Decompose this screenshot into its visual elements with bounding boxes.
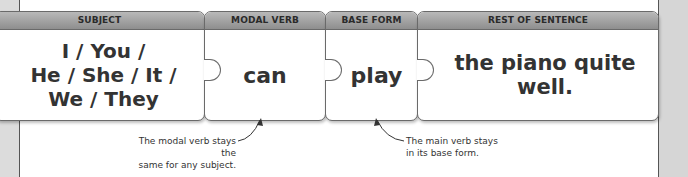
rest-of-sentence-text: the piano quite well. [418,30,658,120]
annotation-line: The modal verb stays the [124,135,236,159]
modal-annotation: The modal verb stays the same for any su… [124,135,236,171]
rest-of-sentence-header: REST OF SENTENCE [418,12,658,30]
subject-text: I / You / He / She / It / We / They [0,30,204,120]
base-form-header: BASE FORM [326,12,417,30]
base-form-piece: BASE FORM play [325,11,418,121]
modal-verb-piece: MODAL VERB can [204,11,326,121]
arrow-icon [368,117,408,157]
annotation-line: in its base form. [406,147,498,159]
modal-verb-header: MODAL VERB [205,12,325,30]
subject-header: SUBJECT [0,12,204,30]
subject-piece: SUBJECT I / You / He / She / It / We / T… [0,11,205,121]
rest-of-sentence-piece: REST OF SENTENCE the piano quite well. [417,11,659,121]
base-annotation: The main verb stays in its base form. [406,135,498,159]
annotation-line: same for any subject. [124,159,236,171]
arrow-icon [230,117,270,157]
page-edge-right [658,0,688,177]
modal-verb-text: can [205,30,325,120]
annotation-line: The main verb stays [406,135,498,147]
